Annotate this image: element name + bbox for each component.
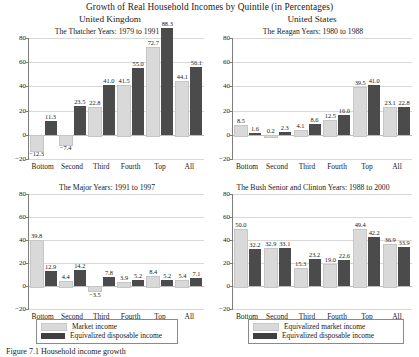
- bar-value-label: 16.0: [339, 107, 350, 114]
- gridline: [233, 159, 412, 160]
- bar: [88, 107, 102, 137]
- legend-uk: Market income Equivalized disposable inc…: [36, 319, 178, 344]
- bar-value-label: 0.2: [267, 127, 275, 134]
- bar-value-label: 5.2: [134, 272, 142, 279]
- gridline: [233, 309, 412, 310]
- y-axis-tick-mark: [26, 159, 29, 160]
- y-axis-tick-label: −20: [15, 305, 26, 313]
- bar: [190, 278, 202, 286]
- gridline: [29, 309, 204, 310]
- bar-value-label: 19.0: [325, 256, 336, 263]
- y-axis-tick-label: 60: [223, 58, 230, 66]
- plot-area-thatcher: 806040200−20−12.311.3−7.423.522.841.041.…: [28, 38, 204, 160]
- y-axis-tick-label: 40: [19, 236, 26, 244]
- bar-value-label: 11.3: [45, 113, 56, 120]
- bar-value-label: 39.8: [31, 232, 42, 239]
- bar-value-label: 88.3: [162, 20, 173, 27]
- x-axis-label: Third: [292, 162, 322, 171]
- x-axis-label: Bottom: [232, 162, 262, 171]
- legend-item-equivalized-market-income: Equivalized market income: [253, 322, 399, 331]
- bar-groups: 39.812.94.414.2−3.57.83.95.28.45.25.47.1: [29, 194, 204, 309]
- bar-value-label: −12.3: [29, 150, 44, 157]
- legend-item-market-income: Market income: [41, 322, 173, 331]
- bar: [190, 67, 202, 135]
- chart-panel-bush-clinton: The Bush Senior and Clinton Years: 1988 …: [210, 182, 416, 322]
- bar-value-label: 4.1: [297, 122, 305, 129]
- bar-value-label: 49.4: [355, 221, 366, 228]
- bar: [264, 248, 278, 288]
- y-axis-tick-label: 0: [227, 131, 231, 139]
- bar-group: −3.57.8: [87, 194, 116, 309]
- figure-title: Growth of Real Household Incomes by Quin…: [0, 2, 419, 12]
- x-axis-label: Fourth: [322, 162, 352, 171]
- bar: [323, 120, 337, 137]
- bar-value-label: 36.9: [384, 236, 395, 243]
- chart-panel-thatcher: The Thatcher Years: 1979 to 1991 8060402…: [6, 26, 208, 172]
- y-axis-tick-label: 40: [223, 236, 230, 244]
- bar-group: 44.156.1: [175, 38, 204, 159]
- bar-value-label: 12.9: [45, 263, 56, 270]
- bar: [117, 85, 131, 137]
- bar-group: 72.788.3: [146, 38, 175, 159]
- bar: [175, 280, 189, 288]
- bar-value-label: 44.1: [177, 73, 188, 80]
- bar: [294, 130, 308, 137]
- x-axis-label: Fourth: [116, 162, 145, 171]
- bar-groups: 8.51.60.22.34.18.612.516.039.541.023.122…: [233, 38, 412, 159]
- x-axis-label: Second: [262, 162, 292, 171]
- bar-value-label: 7.1: [192, 270, 200, 277]
- chart-panel-major: The Major Years: 1991 to 1997 806040200−…: [6, 182, 208, 322]
- bar: [279, 248, 291, 286]
- bar: [368, 85, 380, 135]
- bar-value-label: 23.1: [384, 99, 395, 106]
- legend-label-equivalized-disposable-income: Equivalized disposable income: [282, 331, 374, 340]
- x-axis-label: All: [175, 162, 204, 171]
- bar: [309, 124, 321, 134]
- bar-value-label: 8.4: [149, 268, 157, 275]
- country-label-uk: United Kingdom: [10, 14, 210, 24]
- bar: [117, 282, 131, 288]
- y-axis-tick-label: 80: [19, 34, 26, 42]
- bar: [161, 280, 173, 286]
- bar: [279, 132, 291, 135]
- bar-value-label: 7.8: [105, 269, 113, 276]
- bar-value-label: 56.1: [191, 59, 202, 66]
- bar-value-label: 41.5: [119, 77, 130, 84]
- bar-group: 32.933.1: [263, 194, 293, 309]
- bar: [234, 229, 248, 289]
- bar: [234, 125, 248, 137]
- bar: [353, 229, 367, 288]
- bar-value-label: 4.4: [62, 273, 70, 280]
- bar: [398, 107, 410, 135]
- bar: [132, 280, 144, 286]
- bar-value-label: 55.0: [133, 60, 144, 67]
- bar-group: 5.47.1: [175, 194, 204, 309]
- bar-value-label: −3.5: [89, 291, 101, 298]
- legend-item-disposable-income: Equivalized disposable income: [41, 331, 173, 340]
- bar-group: 19.022.6: [322, 194, 352, 309]
- bar-group: 3.95.2: [117, 194, 146, 309]
- bar: [398, 247, 410, 286]
- bar: [368, 237, 380, 286]
- bar: [45, 121, 57, 135]
- y-axis-tick-label: 0: [227, 282, 231, 290]
- bar-group: −12.311.3: [29, 38, 58, 159]
- chart-title-major: The Major Years: 1991 to 1997: [6, 182, 208, 194]
- bar-value-label: 14.2: [74, 262, 85, 269]
- y-axis-tick-label: 20: [19, 259, 26, 267]
- bar-value-label: 72.7: [148, 39, 159, 46]
- y-axis-tick-label: 20: [19, 107, 26, 115]
- y-axis-tick-label: 40: [223, 82, 230, 90]
- bar-group: −7.423.5: [58, 38, 87, 159]
- bar-value-label: −7.4: [60, 144, 72, 151]
- bar: [132, 68, 144, 135]
- bar-value-label: 32.9: [265, 240, 276, 247]
- bar-group: 4.414.2: [58, 194, 87, 309]
- y-axis-tick-label: 40: [19, 82, 26, 90]
- legend-swatch-disposable-income: [41, 333, 65, 339]
- chart-title-reagan: The Reagan Years: 1980 to 1988: [210, 26, 416, 38]
- bar-value-label: 41.0: [369, 77, 380, 84]
- x-axis-label: All: [175, 312, 204, 321]
- bar-group: 8.51.6: [233, 38, 263, 159]
- bar-value-label: 15.3: [295, 260, 306, 267]
